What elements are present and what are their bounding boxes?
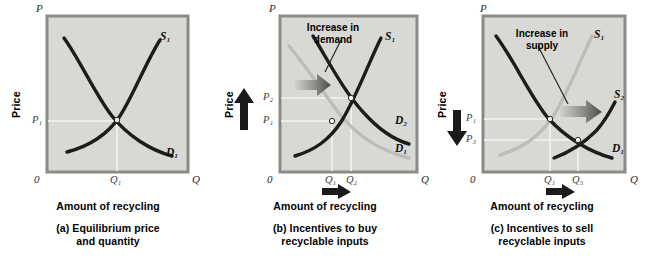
caption-sub-a-line2: and quantity xyxy=(0,235,216,248)
caption-sub-c-line2: recyclable inputs xyxy=(434,235,650,248)
equilibrium-point-e1 xyxy=(547,116,552,121)
curve-label-s2: S₂ xyxy=(614,88,624,100)
annotation-increase-in-supply: Increase in supply xyxy=(498,28,586,51)
caption-sub-b-line1: (b) Incentives to buy xyxy=(217,222,433,235)
caption-sub-b-line2: recyclable inputs xyxy=(217,235,433,248)
curve-label-d1: D₁ xyxy=(612,142,624,154)
curve-label-d1: D₁ xyxy=(166,146,178,158)
panel-c: P Price Increase in supply xyxy=(434,0,650,275)
quantity-increase-arrow xyxy=(544,183,578,201)
equilibrium-point-e2 xyxy=(348,95,353,100)
quantity-increase-arrow xyxy=(320,183,354,201)
tick-quantity-q1: Q₁ xyxy=(110,174,121,185)
curve-label-d1: D₁ xyxy=(395,142,407,154)
caption-amount-a: Amount of recycling xyxy=(0,200,216,213)
caption-amount-b: Amount of recycling xyxy=(217,200,433,213)
equilibrium-point-e3 xyxy=(575,137,580,142)
caption-sub-b: (b) Incentives to buy recyclable inputs xyxy=(217,222,433,247)
x-axis-letter: Q xyxy=(630,173,638,185)
tick-price-p1: P₁ xyxy=(263,114,273,125)
caption-sub-c: (c) Incentives to sell recyclable inputs xyxy=(434,222,650,247)
price-increase-arrow xyxy=(231,86,257,132)
panel-a: P Price S₁ D₁ P₁ Q₁ 0 Q Amount of recycl… xyxy=(0,0,216,275)
caption-sub-a-line1: (a) Equilibrium price xyxy=(0,222,216,235)
curve-label-s1: S₁ xyxy=(594,28,604,40)
caption-sub-c-line1: (c) Incentives to sell xyxy=(434,222,650,235)
annotation-line2: demand xyxy=(289,34,377,46)
plot-area-a xyxy=(0,0,216,195)
annotation-line1: Increase in xyxy=(289,22,377,34)
caption-amount-c: Amount of recycling xyxy=(434,200,650,213)
tick-price-p2: P₂ xyxy=(263,91,273,102)
equilibrium-point-e1 xyxy=(329,118,334,123)
equilibrium-point-e1 xyxy=(114,117,119,122)
x-axis-letter: Q xyxy=(421,173,429,185)
panel-b: P Price Increase in demand xyxy=(217,0,433,275)
origin-label: 0 xyxy=(34,173,40,185)
curve-label-s1: S₁ xyxy=(385,30,395,42)
curve-label-s1: S₁ xyxy=(160,30,170,42)
annotation-line1: Increase in xyxy=(498,28,586,40)
annotation-increase-in-demand: Increase in demand xyxy=(289,22,377,45)
curve-label-d2: D₂ xyxy=(395,114,407,126)
annotation-line2: supply xyxy=(498,40,586,52)
x-axis-letter: Q xyxy=(192,173,200,185)
origin-label: 0 xyxy=(267,173,273,185)
tick-price-p1: P₁ xyxy=(32,114,42,125)
price-decrease-arrow xyxy=(444,108,470,148)
origin-label: 0 xyxy=(470,173,476,185)
caption-sub-a: (a) Equilibrium price and quantity xyxy=(0,222,216,247)
